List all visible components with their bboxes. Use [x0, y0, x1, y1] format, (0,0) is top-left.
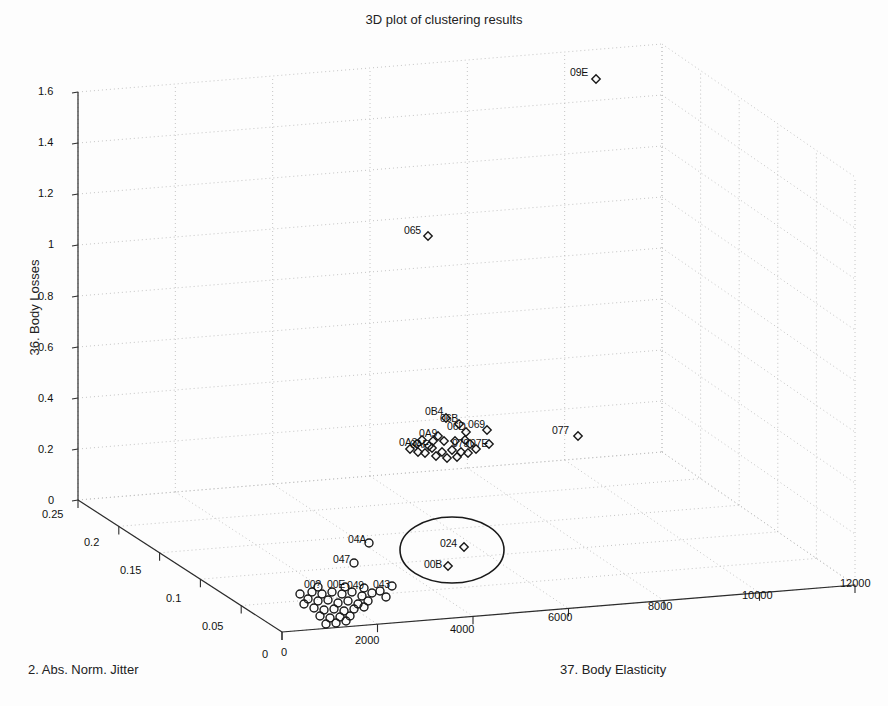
- yaxis-tick-label: 0.25: [42, 508, 63, 520]
- data-point-circle[interactable]: [338, 590, 346, 598]
- data-point-circle[interactable]: [316, 612, 324, 620]
- xaxis-tick-label: 4000: [450, 623, 474, 635]
- data-point-circle[interactable]: [350, 559, 358, 567]
- grid-floor: [78, 452, 855, 632]
- zaxis-tick-label: 1.4: [38, 136, 53, 148]
- point-label: 04A: [348, 533, 366, 545]
- point-label: 069: [468, 418, 485, 430]
- data-point-diamond[interactable]: [460, 543, 468, 551]
- data-point-circle[interactable]: [382, 593, 390, 601]
- zaxis-tick-label: 0.4: [38, 392, 53, 404]
- yaxis-tick-label: 0.1: [166, 592, 181, 604]
- zaxis-tick-label: 0: [48, 494, 54, 506]
- point-label: 07E: [470, 437, 488, 449]
- yaxis-tick-label: 0.05: [202, 620, 223, 632]
- data-point-circle[interactable]: [330, 605, 338, 613]
- point-label: 00B: [424, 558, 442, 570]
- data-point-diamond[interactable]: [453, 453, 461, 461]
- point-label: 047: [333, 553, 350, 565]
- yaxis-tick-label: 0.15: [120, 564, 141, 576]
- xaxis-tick-label: 10000: [742, 589, 773, 601]
- zaxis-tick-label: 1.6: [38, 85, 53, 97]
- xaxis-tick-label: 12000: [840, 577, 871, 589]
- grid-back-wall: [78, 44, 662, 500]
- point-label: 00?: [304, 578, 321, 590]
- yaxis-tick-label: 0.2: [84, 536, 99, 548]
- xaxis-tick-label: 0: [281, 646, 287, 658]
- zaxis-label: 36. Body Losses: [27, 228, 42, 388]
- xaxis-label: 37. Body Elasticity: [560, 662, 666, 677]
- data-point-circle[interactable]: [322, 620, 330, 628]
- point-label: 049: [347, 579, 364, 591]
- plot-canvas: 3D plot of clustering results 09E0650770…: [0, 0, 888, 706]
- data-point-diamond[interactable]: [592, 75, 600, 83]
- xaxis-tick-label: 2000: [355, 634, 379, 646]
- data-point-diamond[interactable]: [444, 562, 452, 570]
- data-point-circle[interactable]: [310, 604, 318, 612]
- axis-tick-marks: [72, 92, 855, 640]
- data-point-circle[interactable]: [332, 619, 340, 627]
- yaxis-label: 2. Abs. Norm. Jitter: [28, 662, 139, 677]
- data-point-circle[interactable]: [296, 590, 304, 598]
- data-point-diamond[interactable]: [424, 232, 432, 240]
- point-label: 06D: [447, 420, 466, 432]
- data-point-circle[interactable]: [365, 539, 373, 547]
- zaxis-tick-label: 1.2: [38, 187, 53, 199]
- axis-lines: [78, 92, 855, 632]
- point-label: 024: [440, 537, 457, 549]
- yaxis-tick-label: 0: [262, 648, 268, 660]
- point-label: 0AF: [410, 438, 429, 450]
- data-point-circle[interactable]: [344, 597, 352, 605]
- point-label: 077: [552, 424, 569, 436]
- data-point-diamond[interactable]: [574, 432, 582, 440]
- point-label: 00E: [327, 578, 345, 590]
- data-point-circle[interactable]: [368, 589, 376, 597]
- annotation-shapes: [400, 517, 504, 583]
- highlight-ellipse: [400, 517, 504, 583]
- xaxis-tick-label: 6000: [548, 611, 572, 623]
- data-point-circle[interactable]: [324, 596, 332, 604]
- point-label: 09E: [570, 66, 588, 78]
- xaxis-tick-label: 8000: [648, 600, 672, 612]
- point-label: 043: [373, 578, 390, 590]
- zaxis-tick-label: 0.2: [38, 443, 53, 455]
- grid-right-wall: [662, 44, 855, 585]
- point-label: 065: [404, 224, 421, 236]
- zaxis-tick-label: 1: [48, 238, 54, 250]
- point-label: 079: [452, 437, 469, 449]
